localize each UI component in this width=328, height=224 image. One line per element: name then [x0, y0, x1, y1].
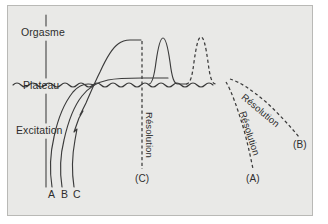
axis-label-plateau: Plateau: [23, 80, 59, 91]
endpoint-label-b: (B): [293, 140, 307, 150]
diagram-panel: Orgasme Plateau Excitation A B C Résolut…: [7, 5, 313, 216]
figure-root: Orgasme Plateau Excitation A B C Résolut…: [0, 0, 328, 224]
baseline-label-b: B: [61, 189, 68, 200]
resolution-label-c: Résolution: [145, 112, 155, 158]
axis-label-excitation: Excitation: [16, 125, 63, 136]
baseline-label-a: A: [48, 189, 55, 200]
curve-b: [61, 78, 299, 187]
curve-a: [13, 37, 253, 187]
baseline-label-c: C: [73, 189, 81, 200]
endpoint-label-a: (A): [246, 174, 260, 184]
curve-c: [73, 40, 142, 187]
curve-a-orgasm-spike-solid: [149, 38, 186, 84]
axis-label-orgasme: Orgasme: [21, 27, 65, 38]
curve-a-orgasm-spike-dashed: [186, 37, 216, 84]
endpoint-label-c: (C): [135, 174, 149, 184]
curve-c-solid: [73, 40, 141, 187]
